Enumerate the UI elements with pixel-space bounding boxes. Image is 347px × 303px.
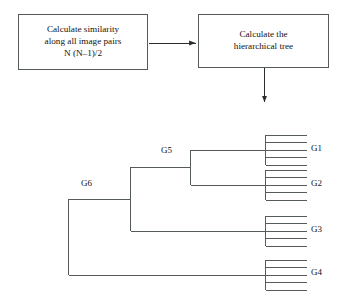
dendrogram-label-G1: G1 (311, 143, 322, 153)
dendrogram-label-G4: G4 (311, 267, 322, 277)
diagram-canvas: Calculate similarity along all image pai… (0, 0, 347, 303)
leaf-bracket-G4 (266, 260, 308, 290)
dendrogram-label-G3: G3 (311, 224, 322, 234)
leaf-bracket-G1 (266, 135, 308, 165)
leaf-bracket-G2 (266, 170, 308, 200)
dendrogram-root-node (69, 199, 266, 275)
leaf-bracket-G3 (266, 216, 308, 246)
diagram-lines-layer (0, 0, 347, 303)
dendrogram-label-G5: G5 (161, 145, 172, 155)
dendrogram-label-G6: G6 (81, 178, 92, 188)
dendrogram-node-G5 (130, 150, 265, 185)
dendrogram-label-G2: G2 (311, 178, 322, 188)
dendrogram-node-G6 (68, 168, 265, 232)
